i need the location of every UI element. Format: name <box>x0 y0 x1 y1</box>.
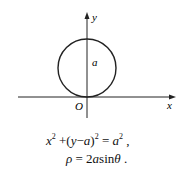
origin-label: O <box>75 100 83 112</box>
y-axis-label: y <box>91 11 97 23</box>
y-axis-arrow-icon <box>85 12 90 19</box>
cartesian-equation: x2 +(y−a)2 = a2 , <box>46 132 130 149</box>
polar-equation: ρ = 2asinθ . <box>66 151 127 167</box>
radius-label: a <box>92 56 98 68</box>
x-axis-label: x <box>166 99 172 111</box>
